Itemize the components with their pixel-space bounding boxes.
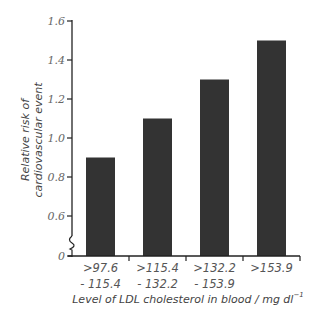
y-tick-label: 0.6 xyxy=(48,210,66,223)
x-axis-categories: >97.6- 115.4>115.4- 132.2>132.2- 153.9>1… xyxy=(80,261,293,291)
axis-break-icon xyxy=(70,236,75,257)
bar-chart: 00.60.81.01.21.41.6 >97.6- 115.4>115.4- … xyxy=(0,0,319,311)
x-category-label: >115.4 xyxy=(136,261,179,275)
y-tick-label: 0.8 xyxy=(48,171,66,184)
y-tick-label: 1.6 xyxy=(48,15,66,28)
y-tick-label: 1.2 xyxy=(48,93,66,106)
bar xyxy=(257,41,286,257)
y-axis-title-line2: cardiovascular event xyxy=(32,82,45,198)
x-category-label: - 132.2 xyxy=(137,277,178,291)
y-axis-ticks: 00.60.81.01.21.41.6 xyxy=(48,15,73,263)
bar xyxy=(86,158,115,257)
y-tick-label: 1.0 xyxy=(48,132,66,145)
x-axis-title: Level of LDL cholesterol in blood / mg d… xyxy=(72,291,304,306)
x-category-label: >97.6 xyxy=(83,261,118,275)
bars xyxy=(86,41,286,257)
bar xyxy=(143,119,172,257)
y-axis-title-line1: Relative risk of xyxy=(19,97,32,181)
y-tick-label: 1.4 xyxy=(48,54,66,67)
y-tick-label: 0 xyxy=(58,250,65,263)
x-category-label: - 153.9 xyxy=(194,277,235,291)
bar xyxy=(200,80,229,257)
x-category-label: - 115.4 xyxy=(80,277,121,291)
x-category-label: >132.2 xyxy=(193,261,236,275)
x-category-label: >153.9 xyxy=(250,261,293,275)
